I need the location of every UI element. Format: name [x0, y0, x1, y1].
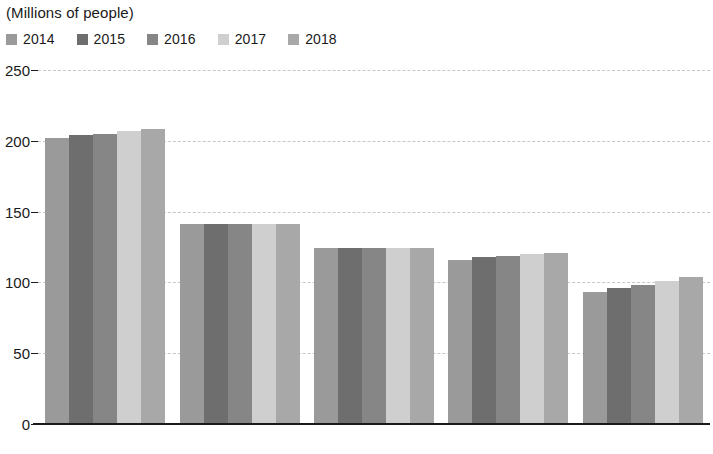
- y-axis-tick-mark: [31, 70, 38, 71]
- bar[interactable]: [679, 277, 703, 424]
- bar-group: [180, 70, 300, 424]
- bar[interactable]: [141, 129, 165, 424]
- legend-item-label: 2015: [94, 31, 126, 47]
- legend-item[interactable]: 2014: [6, 31, 55, 47]
- bar[interactable]: [631, 285, 655, 424]
- axis-unit-label: (Millions of people): [6, 4, 134, 21]
- bar[interactable]: [583, 292, 607, 424]
- legend-item[interactable]: 2016: [147, 31, 196, 47]
- bar[interactable]: [520, 254, 544, 424]
- bar-group: [583, 70, 703, 424]
- legend-swatch-icon: [77, 34, 88, 45]
- bar[interactable]: [228, 224, 252, 424]
- legend-item[interactable]: 2015: [77, 31, 126, 47]
- y-axis-tick-label: 0: [0, 416, 30, 433]
- legend-swatch-icon: [147, 34, 158, 45]
- legend-item-label: 2018: [305, 31, 337, 47]
- legend-swatch-icon: [288, 34, 299, 45]
- plot-area: 050100150200250BrazilRussiaJapanMexicoEt…: [38, 70, 710, 424]
- bar[interactable]: [252, 224, 276, 424]
- y-axis-tick-mark: [31, 212, 38, 213]
- y-axis-tick-mark: [31, 353, 38, 354]
- bar[interactable]: [204, 224, 228, 424]
- bar[interactable]: [93, 134, 117, 424]
- bar-chart: (Millions of people) 2014201520162017201…: [0, 0, 713, 454]
- bar[interactable]: [386, 248, 410, 424]
- y-axis-tick-label: 200: [0, 132, 30, 149]
- legend-item-label: 2016: [164, 31, 196, 47]
- bar[interactable]: [276, 224, 300, 424]
- y-axis-tick-label: 50: [0, 345, 30, 362]
- bar[interactable]: [117, 131, 141, 424]
- bar[interactable]: [655, 281, 679, 424]
- y-axis-tick-label: 150: [0, 203, 30, 220]
- bar-group: [448, 70, 568, 424]
- bar-group: [314, 70, 434, 424]
- legend-swatch-icon: [6, 34, 17, 45]
- bar[interactable]: [448, 260, 472, 424]
- legend-swatch-icon: [218, 34, 229, 45]
- chart-legend: 20142015201620172018: [6, 31, 359, 47]
- bar[interactable]: [472, 257, 496, 424]
- legend-item[interactable]: 2017: [218, 31, 267, 47]
- bar[interactable]: [496, 256, 520, 425]
- legend-item-label: 2017: [235, 31, 267, 47]
- bar[interactable]: [362, 248, 386, 424]
- bar[interactable]: [607, 288, 631, 424]
- bar[interactable]: [69, 135, 93, 424]
- bar[interactable]: [314, 248, 338, 424]
- y-axis-tick-label: 250: [0, 62, 30, 79]
- x-axis-line: [33, 423, 710, 425]
- bar[interactable]: [180, 224, 204, 424]
- y-axis-tick-mark: [31, 141, 38, 142]
- bar[interactable]: [338, 248, 362, 424]
- y-axis-tick-mark: [31, 282, 38, 283]
- bar-group: [45, 70, 165, 424]
- bar[interactable]: [410, 248, 434, 424]
- y-axis-tick-label: 100: [0, 274, 30, 291]
- bar[interactable]: [45, 138, 69, 424]
- bar[interactable]: [544, 253, 568, 424]
- legend-item-label: 2014: [23, 31, 55, 47]
- legend-item[interactable]: 2018: [288, 31, 337, 47]
